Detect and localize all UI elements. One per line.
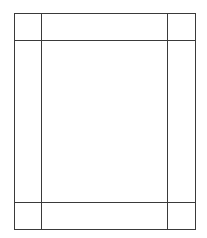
panel-grid-diagram (0, 0, 207, 238)
